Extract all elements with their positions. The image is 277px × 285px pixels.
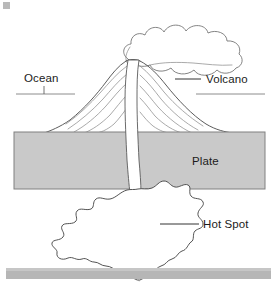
footer-bar-highlight — [6, 268, 271, 271]
plate-label: Plate — [192, 155, 219, 167]
ocean-label: Ocean — [24, 72, 58, 84]
footer-bar-group — [6, 268, 271, 279]
volcano-label: Volcano — [206, 73, 248, 85]
hot-spot-group — [52, 181, 204, 281]
volcano-label-group: Volcano — [175, 73, 248, 85]
diagram-canvas: Hot Spot Volcano Cross Section — [0, 0, 277, 285]
hot-spot-blob — [52, 181, 204, 280]
ocean-label-group: Ocean — [24, 72, 58, 94]
lava-layer-right-1 — [140, 66, 203, 126]
eruption-plume-group — [124, 25, 242, 75]
hot-spot-volcano-diagram: Hot Spot Volcano Cross Section — [0, 0, 277, 285]
eruption-plume-icon — [124, 25, 242, 75]
lava-layer-right-4 — [140, 98, 182, 133]
hot-spot-label: Hot Spot — [203, 218, 249, 230]
lava-layer-right-3 — [140, 86, 192, 133]
lava-layer-left-2 — [68, 74, 127, 129]
page-corner-mark — [3, 2, 10, 9]
lava-layer-left-3 — [74, 83, 127, 132]
lava-layer-left-5 — [95, 108, 127, 133]
